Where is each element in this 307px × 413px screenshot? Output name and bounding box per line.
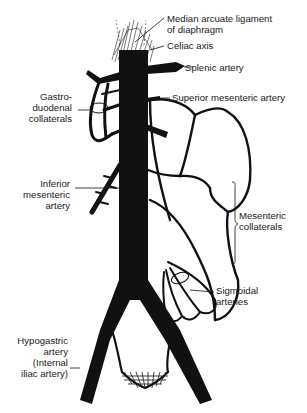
label-splenic-artery: Splenic artery: [185, 62, 244, 73]
pelvic-network: [122, 372, 168, 388]
label-sigmoidal-arteries: Sigmoidal arteries: [216, 285, 258, 307]
inferior-mesenteric-vessel: [92, 165, 120, 212]
gastroduodenal-vessels: [90, 80, 122, 141]
splenic-artery-vessel: [146, 62, 185, 74]
label-median-arcuate-ligament: Median arcuate ligament of diaphragm: [167, 13, 272, 35]
label-mesenteric-collaterals: Mesenteric collaterals: [239, 210, 286, 232]
label-celiac-axis: Celiac axis: [167, 40, 213, 51]
hepatic-branch: [86, 70, 120, 84]
label-gastroduodenal-collaterals: Gastro- duodenal collaterals: [20, 91, 72, 124]
label-superior-mesenteric-artery: Superior mesenteric artery: [172, 92, 285, 103]
internal-iliac-vessels: [112, 330, 172, 388]
label-hypogastric-artery: Hypogastric artery (Internal iliac arter…: [4, 335, 68, 379]
mesenteric-bracket: [232, 182, 238, 264]
label-inferior-mesenteric-artery: Inferior mesenteric artery: [14, 178, 70, 211]
